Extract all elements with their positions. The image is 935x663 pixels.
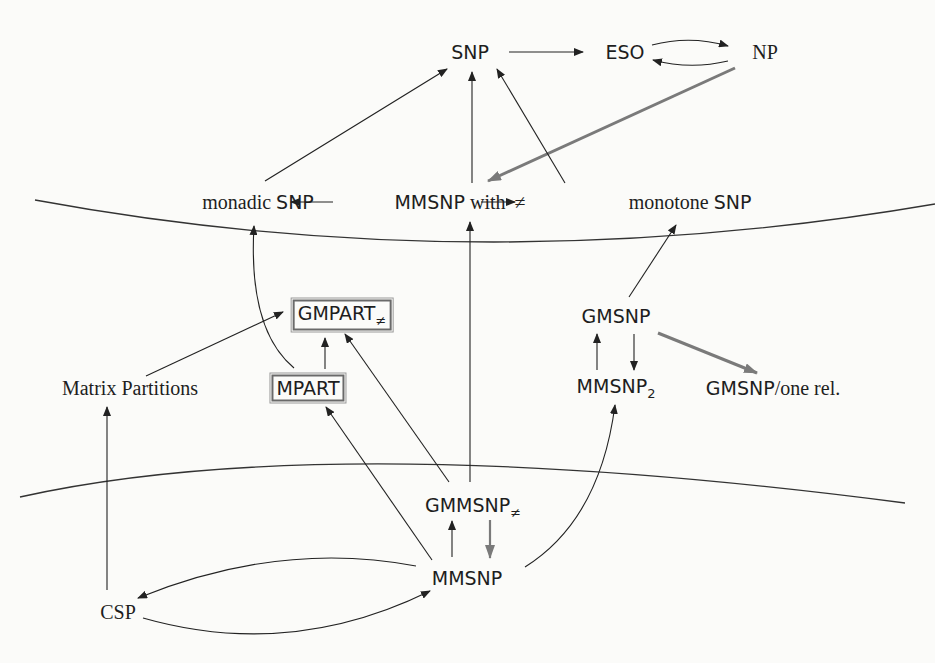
node-label: SNP xyxy=(714,191,752,213)
edge-np-eso xyxy=(653,60,728,65)
node-np: NP xyxy=(752,42,778,62)
diagram-edges xyxy=(0,0,935,663)
node-mmsnp: MMSNP xyxy=(432,569,503,588)
edge-gmsnp-monotone xyxy=(629,225,676,297)
node-label: MMSNP xyxy=(432,567,503,589)
node-label: GMSNP xyxy=(706,377,775,399)
node-monotone-snp: monotone SNP xyxy=(629,192,752,212)
node-label: NP xyxy=(752,41,778,63)
node-eso: ESO xyxy=(605,43,644,62)
edge-monotone-snp xyxy=(497,69,565,183)
node-subscript: ≠ xyxy=(375,313,386,328)
node-mpart: MPART xyxy=(271,375,344,402)
node-monadic-snp: monadic SNP xyxy=(202,192,314,212)
node-label: GMMSNP xyxy=(425,494,510,516)
edge-gmmsnpneq-gmpart xyxy=(345,334,449,482)
edge-mmsnp-mmsnp2 xyxy=(525,405,615,567)
edge-matrix-gmpart xyxy=(146,312,283,376)
node-gmmsnp-neq: GMMSNP≠ xyxy=(425,496,521,519)
node-snp: SNP xyxy=(451,43,489,62)
node-gmsnp-one-rel: GMSNP/one rel. xyxy=(706,378,840,398)
node-mmsnp2: MMSNP2 xyxy=(577,377,656,400)
node-label-prefix: monadic xyxy=(202,191,276,213)
node-label: Matrix Partitions xyxy=(62,377,198,399)
node-gmpart-neq: GMPART≠ xyxy=(293,300,392,331)
node-mmsnp-with-neq: MMSNP with ≠ xyxy=(394,192,525,212)
node-label: CSP xyxy=(100,601,136,623)
edge-mpart-monadic xyxy=(253,226,294,368)
edge-np-mmsnpneq xyxy=(488,68,735,181)
node-label: GMPART xyxy=(298,302,376,324)
edge-mmsnp-csp xyxy=(138,558,416,598)
node-label: MMSNP xyxy=(394,191,465,213)
edge-gmsnp-onerel xyxy=(658,333,757,373)
not-equal-symbol: ≠ xyxy=(515,191,526,213)
node-gmsnp: GMSNP xyxy=(582,307,651,326)
edge-eso-np xyxy=(652,40,728,46)
edge-monadic-snp xyxy=(265,69,447,181)
node-label-suffix: /one rel. xyxy=(775,377,841,399)
node-label: ESO xyxy=(605,41,644,63)
node-subscript: ≠ xyxy=(510,505,521,520)
node-label: MMSNP xyxy=(577,375,648,397)
node-label: MPART xyxy=(276,377,339,399)
node-label: GMSNP xyxy=(582,305,651,327)
node-label-prefix: monotone xyxy=(629,191,714,213)
edge-csp-mmsnp xyxy=(143,591,430,634)
node-matrix-partitions: Matrix Partitions xyxy=(62,378,198,398)
node-label: SNP xyxy=(451,41,489,63)
node-label: SNP xyxy=(276,191,314,213)
node-subscript: 2 xyxy=(647,386,655,401)
edge-mmsnp-mpart xyxy=(326,407,432,560)
node-csp: CSP xyxy=(100,602,136,622)
node-label-suffix: with xyxy=(465,191,511,213)
